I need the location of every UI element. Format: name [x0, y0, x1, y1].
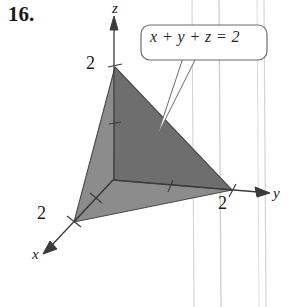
problem-number: 16.	[8, 2, 34, 27]
x-axis-label: x	[32, 246, 39, 263]
x-axis-tick-label: 2	[37, 203, 46, 224]
z-axis-label: z	[112, 0, 118, 17]
geometry-diagram	[0, 0, 293, 307]
plane-equation-label: x + y + z = 2	[150, 28, 240, 46]
y-axis-arrowhead	[255, 187, 270, 197]
z-axis-tick-label: 2	[86, 53, 95, 74]
y-axis-label: y	[273, 185, 280, 202]
y-axis-tick-label: 2	[218, 193, 227, 214]
figure-container: 16. z y x 2 2 2 x + y + z = 2	[0, 0, 293, 307]
z-axis-arrowhead	[110, 16, 118, 30]
callout-pointer	[157, 58, 196, 136]
x-axis-arrowhead	[43, 241, 57, 254]
z-axis-tick-2	[108, 64, 122, 67]
